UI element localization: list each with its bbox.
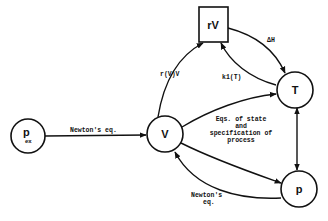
svg-text:V: V bbox=[161, 128, 169, 140]
svg-text:and: and bbox=[235, 123, 247, 130]
edge-label-t-to-rv: k1(T) bbox=[222, 74, 242, 81]
edge-pex-to-v bbox=[45, 135, 146, 136]
edge-label-rv-to-t: ΔH bbox=[267, 37, 275, 44]
process-diagram: Newton's eq. r(V)V ΔH k1(T) Newton's eq.… bbox=[0, 0, 328, 221]
svg-text:ex: ex bbox=[25, 138, 32, 144]
svg-text:specification of: specification of bbox=[210, 130, 273, 137]
edge-label-p-to-v-line1: Newton's bbox=[191, 192, 222, 199]
edge-label-v-to-rv: r(V)V bbox=[160, 71, 180, 78]
edge-rv-to-t bbox=[228, 28, 285, 73]
node-v: V bbox=[147, 116, 183, 152]
svg-text:Eqs. of state: Eqs. of state bbox=[216, 116, 267, 123]
annotation-eqs-of-state: Eqs. of state and specification of proce… bbox=[210, 116, 273, 144]
svg-text:process: process bbox=[227, 137, 254, 144]
node-rv: rV bbox=[199, 7, 228, 42]
svg-text:rV: rV bbox=[207, 19, 219, 31]
edge-v-to-rv bbox=[158, 43, 203, 117]
edge-label-pex-to-v: Newton's eq. bbox=[70, 127, 117, 134]
node-p-ex: p ex bbox=[11, 119, 45, 153]
node-p: p bbox=[281, 171, 317, 207]
node-t: T bbox=[277, 72, 313, 108]
svg-text:p: p bbox=[296, 183, 303, 195]
svg-text:T: T bbox=[292, 84, 299, 96]
edge-label-p-to-v-line2: eq. bbox=[203, 199, 215, 206]
svg-text:p: p bbox=[23, 126, 30, 138]
